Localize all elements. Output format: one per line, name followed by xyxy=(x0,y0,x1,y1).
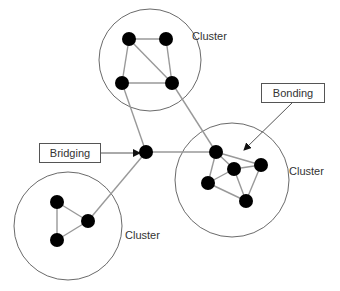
edge-t4-r1 xyxy=(172,83,216,152)
bonding-label-box: Bonding xyxy=(261,83,325,103)
node-b3 xyxy=(50,233,64,247)
node-r3 xyxy=(254,158,268,172)
cluster-circle-bottom-left xyxy=(14,172,122,280)
node-r5 xyxy=(239,194,253,208)
nodes xyxy=(50,32,268,247)
cluster-circle-right xyxy=(175,123,289,237)
node-r4 xyxy=(201,176,215,190)
node-t2 xyxy=(159,32,173,46)
edge-t3-bridge xyxy=(122,83,146,152)
node-t4 xyxy=(165,76,179,90)
node-t3 xyxy=(115,76,129,90)
node-bridge xyxy=(139,145,153,159)
node-t1 xyxy=(122,32,136,46)
node-r2 xyxy=(227,162,241,176)
cluster-label-bottom-left: Cluster xyxy=(125,229,160,241)
node-r1 xyxy=(209,145,223,159)
node-b1 xyxy=(50,195,64,209)
node-b2 xyxy=(81,214,95,228)
edges xyxy=(57,39,261,240)
cluster-label-top: Cluster xyxy=(192,30,227,42)
cluster-label-right: Cluster xyxy=(289,165,324,177)
bridging-label-box: Bridging xyxy=(39,143,101,163)
